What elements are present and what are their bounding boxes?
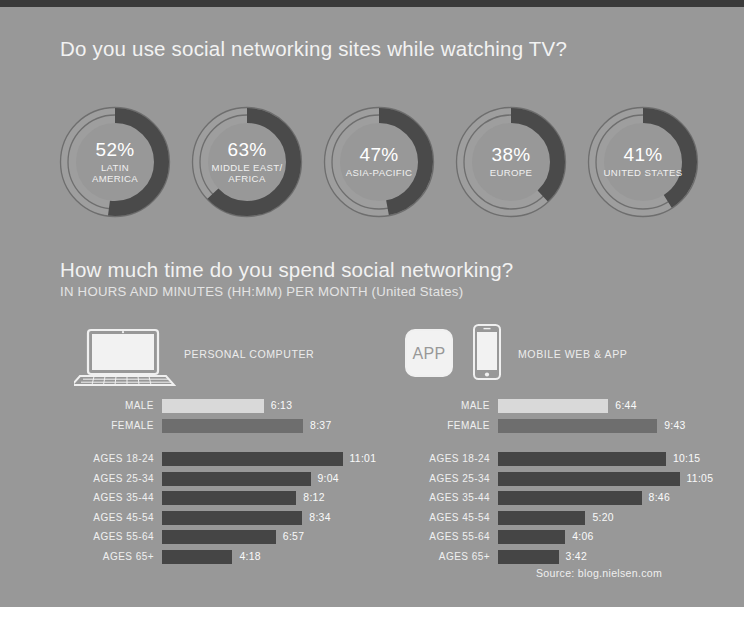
mobile-gender-0-value: 6:44 <box>615 400 636 411</box>
mobile-age-1-label: AGES 25-34 <box>398 473 490 484</box>
donut-svg <box>441 91 581 233</box>
donut-svg <box>573 91 713 233</box>
donut-chart-5: 41%UNITED STATES <box>573 91 713 233</box>
mobile-age-1-value: 11:05 <box>687 473 714 484</box>
mobile-age-1-bar <box>498 472 680 486</box>
pc-age-1-bar <box>162 472 311 486</box>
pc-age-2-bar <box>162 491 296 505</box>
mobile-gender-1-row: FEMALE9:43 <box>398 419 698 434</box>
donut-chart-4: 38%EUROPE <box>441 91 581 233</box>
mobile-icon-label: MOBILE WEB & APP <box>518 348 627 360</box>
mobile-gender-0-row: MALE6:44 <box>398 399 698 414</box>
mobile-group-spacer <box>398 438 698 452</box>
pc-gender-1-value: 8:37 <box>310 420 331 431</box>
mobile-gender-0-label: MALE <box>398 400 490 411</box>
pc-age-3-row: AGES 45-548:34 <box>62 511 362 526</box>
mobile-age-4-value: 4:06 <box>572 531 593 542</box>
pc-gender-0-value: 6:13 <box>271 400 292 411</box>
pc-gender-0-label: MALE <box>62 400 154 411</box>
pc-gender-0-row: MALE6:13 <box>62 399 362 414</box>
pc-gender-1-row: FEMALE8:37 <box>62 419 362 434</box>
infographic-canvas: Do you use social networking sites while… <box>0 7 744 607</box>
top-band <box>0 0 744 7</box>
mobile-age-0-bar <box>498 452 666 466</box>
pc-age-1-label: AGES 25-34 <box>62 473 154 484</box>
mobile-age-2-label: AGES 35-44 <box>398 492 490 503</box>
question-2-heading: How much time do you spend social networ… <box>60 258 513 282</box>
donut-svg <box>309 91 449 233</box>
phone-icon <box>470 323 504 381</box>
pc-age-2-label: AGES 35-44 <box>62 492 154 503</box>
mobile-age-4-label: AGES 55-64 <box>398 531 490 542</box>
mobile-age-2-value: 8:46 <box>649 492 670 503</box>
pc-age-3-value: 8:34 <box>309 512 330 523</box>
pc-age-2-row: AGES 35-448:12 <box>62 491 362 506</box>
mobile-age-group: AGES 18-2410:15AGES 25-3411:05AGES 35-44… <box>398 452 698 565</box>
pc-icon-label: PERSONAL COMPUTER <box>184 348 314 360</box>
question-1-heading: Do you use social networking sites while… <box>60 37 567 61</box>
laptop-icon <box>74 327 178 387</box>
mobile-gender-group: MALE6:44FEMALE9:43 <box>398 399 698 434</box>
pc-gender-0-bar <box>162 399 264 413</box>
mobile-age-0-label: AGES 18-24 <box>398 453 490 464</box>
pc-age-5-label: AGES 65+ <box>62 551 154 562</box>
mobile-age-3-row: AGES 45-545:20 <box>398 511 698 526</box>
pc-age-4-label: AGES 55-64 <box>62 531 154 542</box>
mobile-age-4-row: AGES 55-644:06 <box>398 530 698 545</box>
question-2-subtitle: IN HOURS AND MINUTES (HH:MM) PER MONTH (… <box>60 284 463 299</box>
donut-svg <box>177 91 317 233</box>
pc-age-0-value: 11:01 <box>350 453 377 464</box>
mobile-age-3-bar <box>498 511 585 525</box>
pc-age-4-bar <box>162 530 276 544</box>
mobile-age-5-bar <box>498 550 559 564</box>
pc-age-2-value: 8:12 <box>303 492 324 503</box>
donut-svg <box>45 91 185 233</box>
pc-age-5-value: 4:18 <box>239 551 260 562</box>
pc-group-spacer <box>62 438 362 452</box>
donut-chart-2: 63%MIDDLE EAST/ AFRICA <box>177 91 317 233</box>
infographic-page: Do you use social networking sites while… <box>0 0 744 625</box>
donut-chart-row: 52%LATIN AMERICA63%MIDDLE EAST/ AFRICA47… <box>45 91 705 236</box>
pc-age-0-bar <box>162 452 343 466</box>
mobile-age-2-bar <box>498 491 642 505</box>
mobile-gender-0-bar <box>498 399 608 413</box>
mobile-age-0-value: 10:15 <box>673 453 701 464</box>
mobile-gender-1-bar <box>498 419 657 433</box>
pc-age-group: AGES 18-2411:01AGES 25-349:04AGES 35-448… <box>62 452 362 565</box>
pc-gender-1-label: FEMALE <box>62 420 154 431</box>
bottom-band <box>0 607 744 625</box>
pc-gender-1-bar <box>162 419 303 433</box>
mobile-age-4-bar <box>498 530 565 544</box>
pc-age-1-row: AGES 25-349:04 <box>62 472 362 487</box>
mobile-age-5-row: AGES 65+3:42 <box>398 550 698 565</box>
pc-bar-chart: MALE6:13FEMALE8:37AGES 18-2411:01AGES 25… <box>62 399 362 569</box>
mobile-age-3-value: 5:20 <box>592 512 613 523</box>
pc-age-5-row: AGES 65+4:18 <box>62 550 362 565</box>
donut-chart-3: 47%ASIA-PACIFIC <box>309 91 449 233</box>
pc-age-1-value: 9:04 <box>318 473 339 484</box>
svg-text:APP: APP <box>412 345 445 362</box>
pc-age-3-bar <box>162 511 302 525</box>
mobile-age-5-value: 3:42 <box>566 551 587 562</box>
donut-chart-1: 52%LATIN AMERICA <box>45 91 185 233</box>
mobile-gender-1-label: FEMALE <box>398 420 490 431</box>
pc-age-0-label: AGES 18-24 <box>62 453 154 464</box>
mobile-bar-chart: MALE6:44FEMALE9:43AGES 18-2410:15AGES 25… <box>398 399 698 569</box>
pc-age-4-row: AGES 55-646:57 <box>62 530 362 545</box>
mobile-age-2-row: AGES 35-448:46 <box>398 491 698 506</box>
mobile-age-3-label: AGES 45-54 <box>398 512 490 523</box>
mobile-age-1-row: AGES 25-3411:05 <box>398 472 698 487</box>
pc-age-5-bar <box>162 550 232 564</box>
mobile-gender-1-value: 9:43 <box>664 420 685 431</box>
mobile-age-0-row: AGES 18-2410:15 <box>398 452 698 467</box>
mobile-age-5-label: AGES 65+ <box>398 551 490 562</box>
pc-age-3-label: AGES 45-54 <box>62 512 154 523</box>
source-credit: Source: blog.nielsen.com <box>536 567 662 579</box>
pc-gender-group: MALE6:13FEMALE8:37 <box>62 399 362 434</box>
pc-age-4-value: 6:57 <box>283 531 304 542</box>
pc-age-0-row: AGES 18-2411:01 <box>62 452 362 467</box>
app-icon: APP <box>404 325 456 379</box>
